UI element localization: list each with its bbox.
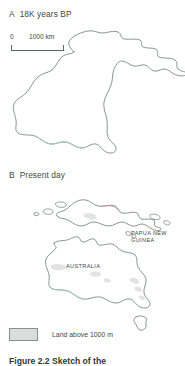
- figure-container: A18K years BP 0 1000 km BPresent day: [0, 0, 185, 366]
- map-label-papua-new-guinea: PAPUA NEW GUINEA: [131, 230, 167, 244]
- legend-swatch-upland: [9, 328, 38, 341]
- map-label-australia: AUSTRALIA: [66, 263, 100, 270]
- panel-b-label: BPresent day: [9, 170, 65, 180]
- png-label-line-2: GUINEA: [131, 237, 155, 243]
- panel-b-title: Present day: [20, 170, 65, 180]
- map-panel-b-present-day: [8, 186, 185, 336]
- png-label-line-1: PAPUA NEW: [131, 230, 167, 236]
- legend-label-upland: Land above 1000 m: [52, 331, 113, 338]
- legend: Land above 1000 m: [9, 328, 113, 341]
- panel-b-letter: B: [9, 170, 15, 180]
- panel-a-title: 18K years BP: [20, 9, 72, 19]
- panel-a-label: A18K years BP: [9, 9, 72, 19]
- figure-caption: Figure 2.2 Sketch of the: [9, 356, 106, 366]
- map-panel-a-sahul: [12, 26, 185, 166]
- panel-a-letter: A: [9, 9, 15, 19]
